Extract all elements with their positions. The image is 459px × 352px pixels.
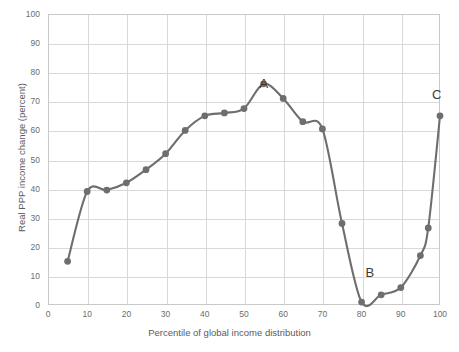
gridline-horizontal [49, 248, 439, 249]
x-axis-tick-label: 10 [72, 310, 102, 319]
gridline-vertical [323, 15, 324, 304]
gridline-vertical [127, 15, 128, 304]
y-axis-tick-label: 100 [0, 10, 40, 19]
gridline-vertical [245, 15, 246, 304]
gridline-horizontal [49, 102, 439, 103]
y-axis-title: Real PPP income change (percent) [16, 33, 27, 283]
gridline-vertical [284, 15, 285, 304]
annotation-label-c: C [432, 88, 441, 101]
x-axis-tick-label: 20 [111, 310, 141, 319]
gridline-horizontal [49, 73, 439, 74]
x-axis-tick-label: 70 [307, 310, 337, 319]
chart-figure: 0102030405060708090100 01020304050607080… [0, 0, 459, 352]
gridline-horizontal [49, 44, 439, 45]
gridline-vertical [363, 15, 364, 304]
y-axis-tick-label: 0 [0, 301, 40, 310]
x-axis-tick-label: 0 [33, 310, 63, 319]
annotation-label-a: A [260, 77, 269, 90]
gridline-horizontal [49, 131, 439, 132]
x-axis-tick-label: 30 [151, 310, 181, 319]
annotation-label-b: B [365, 266, 374, 279]
gridline-horizontal [49, 190, 439, 191]
x-axis-title: Percentile of global income distribution [0, 327, 459, 338]
x-axis-tick-label: 50 [229, 310, 259, 319]
x-axis-tick-label: 80 [347, 310, 377, 319]
gridline-horizontal [49, 219, 439, 220]
gridline-horizontal [49, 277, 439, 278]
gridline-vertical [88, 15, 89, 304]
x-axis-tick-label: 100 [425, 310, 455, 319]
plot-area [48, 14, 440, 305]
gridline-horizontal [49, 161, 439, 162]
x-axis-tick-label: 40 [190, 310, 220, 319]
gridline-vertical [206, 15, 207, 304]
x-axis-tick-label: 60 [268, 310, 298, 319]
gridline-vertical [402, 15, 403, 304]
gridline-vertical [167, 15, 168, 304]
x-axis-tick-label: 90 [386, 310, 416, 319]
